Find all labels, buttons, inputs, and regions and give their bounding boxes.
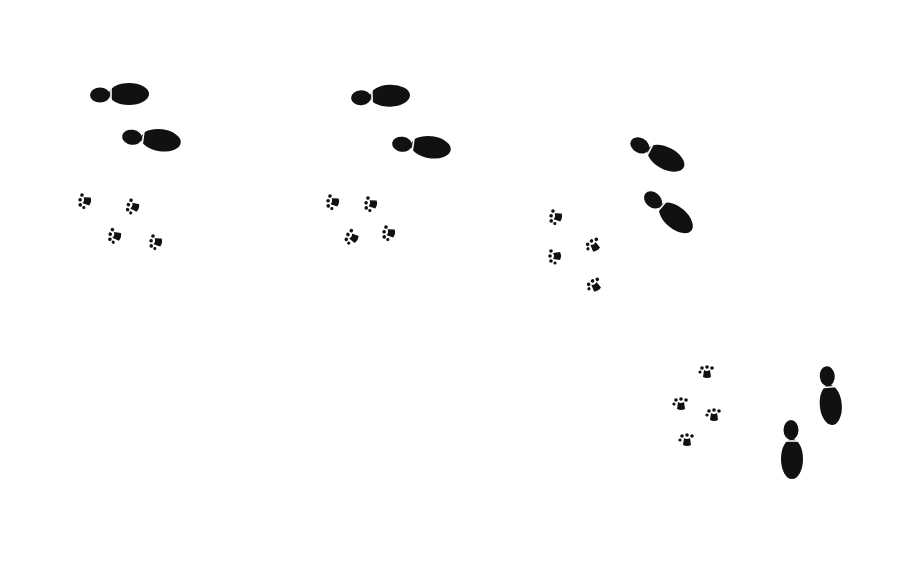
shoe-print bbox=[89, 81, 151, 107]
paw-print-icon bbox=[325, 192, 346, 213]
paw-print-icon bbox=[678, 433, 696, 451]
paw-print-icon bbox=[77, 191, 98, 212]
shoe-print-icon bbox=[779, 419, 805, 481]
paw-print bbox=[548, 207, 569, 228]
paw-print-icon bbox=[698, 365, 716, 383]
paw-print-icon bbox=[148, 232, 169, 253]
paw-print bbox=[325, 192, 346, 213]
paw-print bbox=[705, 408, 723, 426]
shoe-print bbox=[625, 128, 692, 180]
paw-print-icon bbox=[583, 235, 608, 260]
paw-print-icon bbox=[705, 408, 723, 426]
shoe-print-icon bbox=[119, 122, 184, 156]
paw-print bbox=[678, 433, 696, 451]
shoe-print-icon bbox=[814, 364, 845, 428]
paw-print bbox=[342, 226, 367, 251]
paw-print-icon bbox=[363, 194, 384, 215]
shoe-print-icon bbox=[89, 81, 151, 107]
paw-print-icon bbox=[342, 226, 367, 251]
paw-print bbox=[148, 232, 169, 253]
paw-print-icon bbox=[106, 225, 128, 247]
paw-print bbox=[584, 275, 609, 300]
paw-print-icon bbox=[672, 397, 690, 415]
paw-print-icon bbox=[548, 247, 566, 265]
paw-print bbox=[583, 235, 608, 260]
shoe-print-icon bbox=[637, 182, 701, 242]
shoe-print-icon bbox=[389, 129, 454, 163]
shoe-print bbox=[350, 82, 413, 110]
shoe-print-icon bbox=[625, 128, 692, 180]
paw-print bbox=[77, 191, 98, 212]
paw-print bbox=[381, 223, 402, 244]
shoe-print bbox=[637, 182, 701, 242]
shoe-print bbox=[119, 122, 184, 156]
paw-print bbox=[123, 195, 146, 218]
paw-print bbox=[698, 365, 716, 383]
paw-print bbox=[672, 397, 690, 415]
paw-print-icon bbox=[123, 195, 146, 218]
paw-print-icon bbox=[548, 207, 569, 228]
paw-print bbox=[363, 194, 384, 215]
paw-print-icon bbox=[381, 223, 402, 244]
shoe-print-icon bbox=[350, 82, 413, 110]
shoe-print bbox=[779, 419, 805, 481]
paw-print bbox=[548, 247, 566, 265]
shoe-print bbox=[814, 364, 845, 428]
paw-print-icon bbox=[584, 275, 609, 300]
shoe-print bbox=[389, 129, 454, 163]
paw-print bbox=[106, 225, 128, 247]
